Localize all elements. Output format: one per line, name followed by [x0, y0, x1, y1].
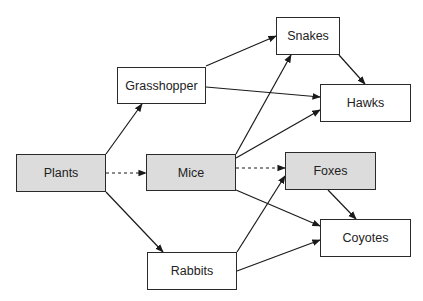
node-hawks: Hawks [320, 84, 411, 122]
node-label: Mice [178, 166, 204, 180]
node-label: Hawks [347, 96, 385, 110]
node-foxes: Foxes [285, 152, 376, 190]
node-label: Grasshopper [125, 79, 197, 93]
edge-rabbits-to-foxes [237, 176, 285, 252]
node-grasshopper: Grasshopper [117, 67, 206, 104]
node-mice: Mice [146, 154, 236, 191]
node-rabbits: Rabbits [147, 252, 237, 290]
node-label: Coyotes [343, 231, 389, 245]
edge-snakes-to-hawks [339, 55, 365, 84]
node-label: Foxes [313, 164, 347, 178]
node-label: Snakes [287, 29, 329, 43]
edge-foxes-to-coyotes [328, 190, 356, 219]
node-snakes: Snakes [276, 17, 340, 55]
edge-mice-to-coyotes [236, 190, 320, 226]
edge-mice-to-hawks [236, 110, 320, 158]
edge-mice-to-snakes [236, 55, 291, 154]
edge-plants-to-rabbits [106, 192, 163, 252]
edge-grasshopper-to-snakes [206, 36, 276, 66]
node-label: Plants [44, 166, 79, 180]
edge-grasshopper-to-hawks [206, 87, 320, 97]
node-plants: Plants [16, 154, 106, 192]
edge-plants-to-grasshopper [106, 104, 142, 154]
edge-rabbits-to-coyotes [237, 240, 320, 271]
node-coyotes: Coyotes [320, 219, 411, 257]
node-label: Rabbits [171, 264, 213, 278]
